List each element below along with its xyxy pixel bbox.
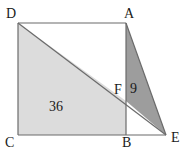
- vertex-label-d: D: [6, 7, 16, 21]
- geometry-figure: D A C B E F 36 9: [0, 0, 189, 159]
- vertex-label-a: A: [124, 7, 134, 21]
- area-label-dark-region: 9: [130, 82, 137, 96]
- vertex-label-f: F: [114, 83, 122, 97]
- vertex-label-b: B: [122, 136, 131, 150]
- vertex-label-c: C: [5, 136, 14, 150]
- vertex-label-e: E: [171, 131, 180, 145]
- figure-canvas: [0, 0, 189, 159]
- area-label-light-region: 36: [49, 100, 63, 114]
- light-shaded-region-36: [18, 23, 126, 135]
